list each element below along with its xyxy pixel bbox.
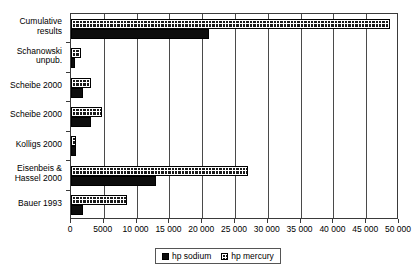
x-axis-tick-label: 15 000 [155,224,181,234]
gridline [333,14,334,218]
category-label: Bauer 1993 [18,199,62,209]
category-label: Eisenbeis & Hassel 2000 [15,164,62,183]
bar-hp-sodium [71,58,75,68]
bar-hp-sodium [71,205,83,215]
y-axis-tick [66,160,70,161]
legend-item-hp-mercury: hp mercury [221,251,274,261]
category-label: Schanowski unpub. [17,47,62,66]
x-axis-tick [168,219,169,223]
bar-hp-sodium [71,146,76,156]
x-axis-tick [103,219,104,223]
y-axis-tick [66,190,70,191]
x-axis-tick-label: 20 000 [188,224,214,234]
x-axis-tick [70,219,71,223]
y-axis-tick [66,131,70,132]
gridline [268,14,269,218]
gridline [301,14,302,218]
category-label: Cumulative results [19,17,62,36]
x-axis-tick-label: 50 000 [385,224,411,234]
bar-chart: Cumulative resultsSchanowski unpub.Schei… [0,0,419,271]
gridline [202,14,203,218]
x-axis-tick [201,219,202,223]
gridline [137,14,138,218]
x-axis-tick-label: 35 000 [287,224,313,234]
legend-item-hp-sodium: hp sodium [162,251,211,261]
y-axis-tick [66,42,70,43]
bar-hp-mercury [71,48,81,58]
x-axis-tick-label: 45 000 [352,224,378,234]
x-axis-tick-label: 5000 [93,224,112,234]
x-axis-tick-label: 30 000 [254,224,280,234]
x-axis-tick [365,219,366,223]
gridline [169,14,170,218]
y-axis-tick [66,101,70,102]
category-label: Scheibe 2000 [10,110,62,120]
bar-hp-mercury [71,78,91,88]
category-axis-labels: Cumulative resultsSchanowski unpub.Schei… [0,13,66,219]
x-axis-tick [398,219,399,223]
bar-hp-mercury [71,166,248,176]
x-axis-tick-label: 25 000 [221,224,247,234]
x-axis-tick [300,219,301,223]
bar-hp-sodium [71,29,209,39]
legend-label-mercury: hp mercury [231,251,274,261]
category-label: Kolligs 2000 [16,140,62,150]
x-axis-tick [234,219,235,223]
category-label: Scheibe 2000 [10,81,62,91]
legend-label-sodium: hp sodium [172,251,211,261]
x-axis-tick-label: 10 000 [123,224,149,234]
gridline [104,14,105,218]
x-axis-tick-label: 0 [68,224,73,234]
bar-hp-sodium [71,117,91,127]
gridline [235,14,236,218]
chart-legend: hp sodium hp mercury [155,248,281,264]
legend-swatch-sodium-icon [162,253,169,260]
plot-area [70,13,398,219]
y-axis-tick [66,72,70,73]
gridline [366,14,367,218]
bar-hp-sodium [71,88,83,98]
bar-hp-mercury [71,195,127,205]
bar-hp-mercury [71,107,102,117]
x-axis-tick [267,219,268,223]
legend-swatch-mercury-icon [221,253,228,260]
x-axis-tick-label: 40 000 [319,224,345,234]
x-axis-tick [332,219,333,223]
bar-hp-mercury [71,136,76,146]
bar-hp-mercury [71,19,390,29]
bar-hp-sodium [71,176,156,186]
x-axis-tick [136,219,137,223]
